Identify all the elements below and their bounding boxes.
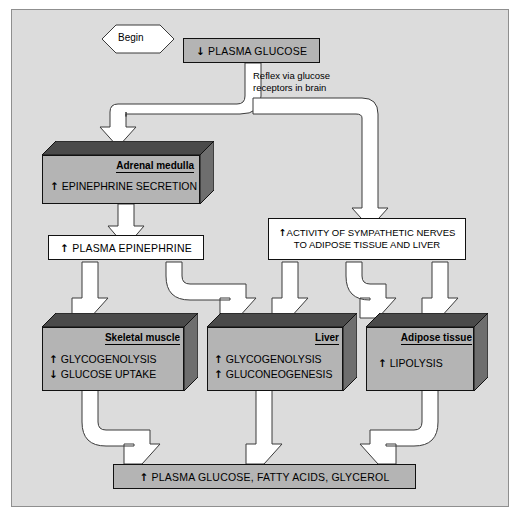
up-arrow-icon: ↑ xyxy=(279,227,287,238)
adrenal-title: Adrenal medulla xyxy=(116,160,194,173)
node-result: ↑ PLASMA GLUCOSE, FATTY ACIDS, GLYCEROL xyxy=(113,464,416,489)
node-plasma-glucose: ↓ PLASMA GLUCOSE xyxy=(183,38,320,63)
node-sympathetic-text: ↑ACTIVITY OF SYMPATHETIC NERVES TO ADIPO… xyxy=(279,227,456,251)
node-adipose-tissue: Adipose tissue ↑ LIPOLYSIS xyxy=(366,313,488,391)
skeletal-title: Skeletal muscle xyxy=(105,332,180,345)
liver-line-1: ↑ GLUCONEOGENESIS xyxy=(214,367,333,382)
adipose-line-0: ↑ LIPOLYSIS xyxy=(378,356,443,371)
node-result-text: ↑ PLASMA GLUCOSE, FATTY ACIDS, GLYCEROL xyxy=(139,471,389,483)
liver-lines: ↑ GLYCOGENOLYSIS ↑ GLUCONEOGENESIS xyxy=(214,352,333,381)
node-adrenal-medulla: Adrenal medulla ↑ EPINEPHRINE SECRETION xyxy=(42,141,214,204)
liver-line-0: ↑ GLYCOGENOLYSIS xyxy=(214,352,333,367)
skeletal-lines: ↑ GLYCOGENOLYSIS ↓ GLUCOSE UPTAKE xyxy=(49,352,157,381)
up-arrow-icon: ↑ xyxy=(214,368,223,380)
adrenal-line-0: ↑ EPINEPHRINE SECRETION xyxy=(50,179,197,194)
sympathetic-line1-wrap: ↑ACTIVITY OF SYMPATHETIC NERVES xyxy=(279,227,456,238)
diagram-canvas: Begin ↓ PLASMA GLUCOSE Reflex via glucos… xyxy=(0,0,527,526)
node-sympathetic-nerves: ↑ACTIVITY OF SYMPATHETIC NERVES TO ADIPO… xyxy=(268,218,466,260)
up-arrow-icon: ↑ xyxy=(49,353,58,365)
node-plasma-epinephrine-text: ↑ PLASMA EPINEPHRINE xyxy=(60,242,192,254)
begin-label: Begin xyxy=(118,32,144,43)
adipose-3d-shell xyxy=(366,313,488,391)
node-plasma-glucose-text: ↓ PLASMA GLUCOSE xyxy=(196,45,307,57)
skeletal-line-0: ↑ GLYCOGENOLYSIS xyxy=(49,352,157,367)
adipose-lines: ↑ LIPOLYSIS xyxy=(378,356,443,371)
liver-title: Liver xyxy=(315,332,339,345)
reflex-caption-line1: Reflex via glucose xyxy=(253,70,330,82)
adipose-title: Adipose tissue xyxy=(401,332,472,345)
skeletal-line-1: ↓ GLUCOSE UPTAKE xyxy=(49,367,157,382)
adrenal-lines: ↑ EPINEPHRINE SECRETION xyxy=(50,179,197,194)
up-arrow-icon: ↑ xyxy=(378,357,387,369)
up-arrow-icon: ↑ xyxy=(214,353,223,365)
node-liver: Liver ↑ GLYCOGENOLYSIS ↑ GLUCONEOGENESIS xyxy=(207,313,357,391)
up-arrow-icon: ↑ xyxy=(60,242,69,254)
up-arrow-icon: ↑ xyxy=(50,180,59,192)
sympathetic-line2: TO ADIPOSE TISSUE AND LIVER xyxy=(294,239,440,250)
down-arrow-icon: ↓ xyxy=(49,368,58,380)
node-plasma-epinephrine: ↑ PLASMA EPINEPHRINE xyxy=(48,235,204,260)
reflex-caption-line2: receptors in brain xyxy=(253,82,330,94)
up-arrow-icon: ↑ xyxy=(139,471,148,483)
reflex-caption: Reflex via glucose receptors in brain xyxy=(253,70,330,93)
down-arrow-icon: ↓ xyxy=(196,45,205,57)
node-skeletal-muscle: Skeletal muscle ↑ GLYCOGENOLYSIS ↓ GLUCO… xyxy=(42,313,198,391)
